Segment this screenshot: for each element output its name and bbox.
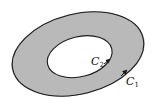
label-c2: C2 xyxy=(91,55,104,69)
annulus-diagram: C2 C1 xyxy=(0,0,156,99)
label-c1: C1 xyxy=(126,75,139,89)
